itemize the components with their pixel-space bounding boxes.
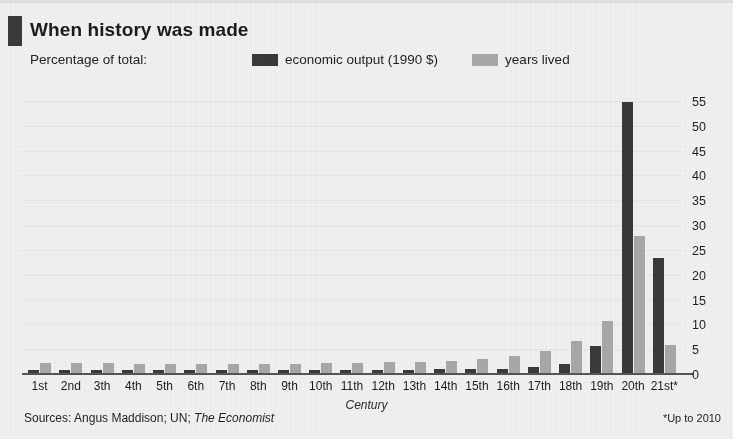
bar-years-lived[interactable] xyxy=(540,351,551,375)
x-axis-tick-label: 9th xyxy=(274,379,305,393)
x-axis-title: Century xyxy=(0,398,733,412)
x-axis-tick-label: 7th xyxy=(211,379,242,393)
x-axis-tick-label: 13th xyxy=(399,379,430,393)
bar-groups xyxy=(22,92,682,375)
x-axis-tick-label: 18th xyxy=(555,379,586,393)
plot-area xyxy=(22,92,682,375)
legend-swatch-icon xyxy=(252,54,278,66)
bar-economic-output[interactable] xyxy=(653,258,664,375)
legend-label: years lived xyxy=(505,52,570,67)
x-axis-tick-label: 3th xyxy=(86,379,117,393)
bar-group[interactable] xyxy=(524,92,555,375)
y-axis: 0510152025303540455055 xyxy=(692,92,732,375)
bar-group[interactable] xyxy=(649,92,680,375)
x-axis-tick-label: 4th xyxy=(118,379,149,393)
y-axis-tick-label: 40 xyxy=(692,169,706,183)
bar-group[interactable] xyxy=(24,92,55,375)
chart-subtitle: Percentage of total: xyxy=(30,52,147,67)
bar-group[interactable] xyxy=(86,92,117,375)
bar-group[interactable] xyxy=(274,92,305,375)
x-axis-tick-label: 15th xyxy=(461,379,492,393)
x-axis-tick-label: 17th xyxy=(524,379,555,393)
bar-group[interactable] xyxy=(617,92,648,375)
bar-group[interactable] xyxy=(461,92,492,375)
x-axis-tick-label: 10th xyxy=(305,379,336,393)
bar-years-lived[interactable] xyxy=(509,356,520,375)
x-axis: 1st2nd3th4th5th6th7th8th9th10th11th12th1… xyxy=(22,379,682,393)
x-axis-tick-label: 1st xyxy=(24,379,55,393)
y-axis-tick-label: 5 xyxy=(692,343,699,357)
sources-publication: The Economist xyxy=(194,411,274,425)
bar-group[interactable] xyxy=(493,92,524,375)
x-axis-tick-label: 6th xyxy=(180,379,211,393)
bar-group[interactable] xyxy=(180,92,211,375)
legend-label: economic output (1990 $) xyxy=(285,52,438,67)
x-axis-tick-label: 20th xyxy=(617,379,648,393)
brand-mark-icon xyxy=(8,16,22,46)
footnote: *Up to 2010 xyxy=(663,412,721,424)
page-title: When history was made xyxy=(30,19,249,41)
legend-swatch-icon xyxy=(472,54,498,66)
bar-group[interactable] xyxy=(399,92,430,375)
y-axis-tick-label: 45 xyxy=(692,145,706,159)
bar-group[interactable] xyxy=(555,92,586,375)
y-axis-tick-label: 35 xyxy=(692,194,706,208)
y-axis-tick-label: 10 xyxy=(692,318,706,332)
bar-years-lived[interactable] xyxy=(634,236,645,375)
bar-group[interactable] xyxy=(586,92,617,375)
chart-legend: economic output (1990 $)years lived xyxy=(252,52,570,67)
x-axis-baseline xyxy=(22,373,694,375)
bar-group[interactable] xyxy=(368,92,399,375)
bar-group[interactable] xyxy=(118,92,149,375)
x-axis-tick-label: 21st* xyxy=(649,379,680,393)
bar-group[interactable] xyxy=(430,92,461,375)
bar-group[interactable] xyxy=(149,92,180,375)
y-axis-tick-label: 50 xyxy=(692,120,706,134)
x-axis-tick-label: 11th xyxy=(336,379,367,393)
y-axis-tick-label: 0 xyxy=(692,368,699,382)
bar-group[interactable] xyxy=(305,92,336,375)
y-axis-tick-label: 20 xyxy=(692,269,706,283)
y-axis-tick-label: 55 xyxy=(692,95,706,109)
x-axis-tick-label: 16th xyxy=(493,379,524,393)
bar-years-lived[interactable] xyxy=(571,341,582,375)
chart-header: When history was made Percentage of tota… xyxy=(0,0,733,82)
x-axis-tick-label: 2nd xyxy=(55,379,86,393)
sources-prefix: Sources: Angus Maddison; UN; xyxy=(24,411,194,425)
bar-group[interactable] xyxy=(336,92,367,375)
bar-years-lived[interactable] xyxy=(602,321,613,375)
y-axis-tick-label: 15 xyxy=(692,294,706,308)
x-axis-tick-label: 14th xyxy=(430,379,461,393)
bar-group[interactable] xyxy=(211,92,242,375)
bar-economic-output[interactable] xyxy=(590,346,601,375)
x-axis-tick-label: 19th xyxy=(586,379,617,393)
chart-footer: Sources: Angus Maddison; UN; The Economi… xyxy=(0,411,733,431)
y-axis-tick-label: 25 xyxy=(692,244,706,258)
legend-item-years_lived[interactable]: years lived xyxy=(472,52,570,67)
bar-group[interactable] xyxy=(55,92,86,375)
legend-item-economic_output[interactable]: economic output (1990 $) xyxy=(252,52,438,67)
bar-years-lived[interactable] xyxy=(665,345,676,375)
chart-figure: When history was made Percentage of tota… xyxy=(0,0,733,439)
bar-group[interactable] xyxy=(243,92,274,375)
sources-note: Sources: Angus Maddison; UN; The Economi… xyxy=(24,411,274,425)
y-axis-tick-label: 30 xyxy=(692,219,706,233)
x-axis-tick-label: 8th xyxy=(243,379,274,393)
x-axis-tick-label: 5th xyxy=(149,379,180,393)
x-axis-tick-label: 12th xyxy=(368,379,399,393)
bar-economic-output[interactable] xyxy=(622,102,633,375)
